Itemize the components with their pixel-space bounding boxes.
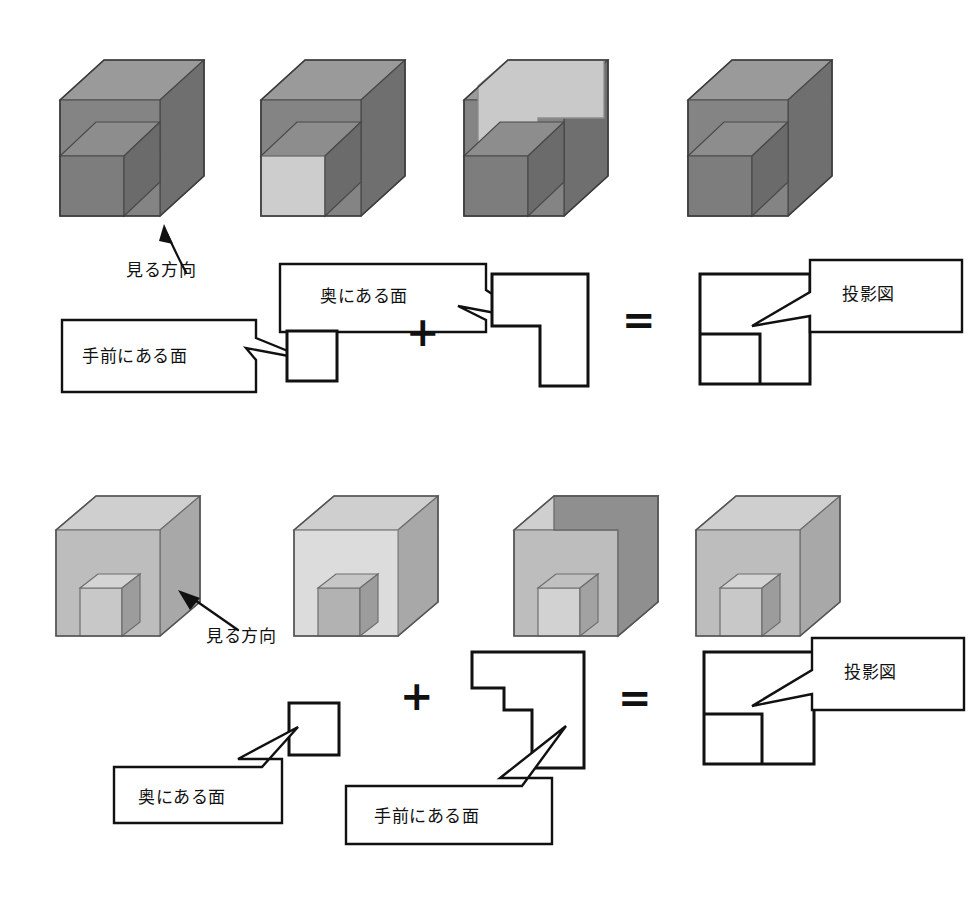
front-face-shape-top [284, 328, 340, 384]
callout-projection-top-text: 投影図 [842, 286, 895, 303]
callout-projection-bottom: 投影図 [778, 636, 968, 724]
operator-plus-top: + [406, 312, 440, 352]
top-solid-2 [253, 48, 433, 228]
diagram-canvas: 見る方向 奥にある面 手前にある面 + = [0, 0, 975, 913]
callout-front-face-bottom: 手前にある面 [344, 760, 644, 848]
callout-back-face-top-text: 奥にある面 [320, 288, 408, 305]
bottom-solid-2 [288, 490, 468, 650]
top-solid-1 [52, 48, 232, 228]
callout-back-face-bottom-text: 奥にある面 [138, 789, 226, 806]
view-direction-label-top: 見る方向 [126, 262, 196, 279]
highlighted-front-face [261, 156, 325, 216]
view-direction-label-bottom: 見る方向 [206, 628, 276, 645]
callout-front-face-top-text: 手前にある面 [82, 348, 187, 365]
front-face-shape-bottom [464, 648, 590, 772]
operator-plus-bottom: + [400, 676, 434, 716]
operator-equals-top: = [622, 300, 656, 340]
top-solid-4 [680, 48, 860, 228]
callout-projection-bottom-text: 投影図 [844, 664, 897, 681]
back-face-shape-top [466, 270, 592, 390]
bottom-solid-3 [508, 490, 688, 650]
top-solid-3 [456, 48, 636, 228]
bottom-solid-4 [690, 490, 870, 650]
callout-back-face-bottom: 奥にある面 [112, 745, 382, 827]
operator-equals-bottom: = [618, 678, 652, 718]
callout-front-face-bottom-text: 手前にある面 [374, 808, 479, 825]
callout-projection-top: 投影図 [776, 258, 966, 346]
